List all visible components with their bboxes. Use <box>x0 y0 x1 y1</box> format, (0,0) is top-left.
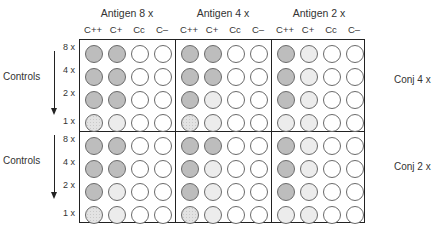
well <box>250 68 268 86</box>
well <box>181 183 199 201</box>
well <box>204 137 222 155</box>
well <box>154 206 172 224</box>
well <box>323 183 341 201</box>
column-label: C– <box>343 24 365 35</box>
column-label: C+ <box>201 24 223 35</box>
well <box>300 206 318 224</box>
antigen-header-2x: Antigen 2 x <box>271 7 367 19</box>
well <box>300 137 318 155</box>
well <box>154 68 172 86</box>
well <box>250 114 268 132</box>
well <box>346 137 364 155</box>
well <box>346 183 364 201</box>
well <box>131 160 149 178</box>
well <box>300 114 318 132</box>
column-label: Cc <box>128 24 150 35</box>
well <box>108 68 126 86</box>
well <box>250 183 268 201</box>
arrow-down-icon <box>51 192 57 199</box>
row-label: 8 x <box>55 42 75 52</box>
well <box>108 91 126 109</box>
well <box>154 114 172 132</box>
column-label: Cc <box>224 24 246 35</box>
antigen-header-8x: Antigen 8 x <box>79 7 175 19</box>
column-label: C++ <box>82 24 104 35</box>
plate-divider <box>80 131 364 132</box>
well <box>154 91 172 109</box>
column-label: C++ <box>274 24 296 35</box>
well <box>85 114 103 132</box>
well <box>227 68 245 86</box>
arrow-down-icon <box>51 108 57 115</box>
well <box>85 91 103 109</box>
well <box>181 91 199 109</box>
well <box>277 183 295 201</box>
column-label: C– <box>247 24 269 35</box>
well <box>108 114 126 132</box>
well <box>300 160 318 178</box>
well <box>181 137 199 155</box>
well <box>181 114 199 132</box>
well <box>108 45 126 63</box>
well <box>181 160 199 178</box>
well <box>131 68 149 86</box>
well <box>227 183 245 201</box>
well <box>181 45 199 63</box>
well <box>250 160 268 178</box>
well <box>108 183 126 201</box>
well <box>131 45 149 63</box>
well <box>323 206 341 224</box>
well <box>108 137 126 155</box>
well <box>181 68 199 86</box>
well-plate-grid <box>79 39 365 223</box>
well <box>204 206 222 224</box>
well <box>227 45 245 63</box>
well <box>204 114 222 132</box>
row-label: 1 x <box>55 116 75 126</box>
well <box>181 206 199 224</box>
well <box>204 91 222 109</box>
well <box>346 45 364 63</box>
well <box>277 160 295 178</box>
well <box>227 114 245 132</box>
well <box>85 183 103 201</box>
well <box>277 45 295 63</box>
row-label: 4 x <box>55 65 75 75</box>
column-label: C+ <box>297 24 319 35</box>
well <box>227 137 245 155</box>
well <box>277 114 295 132</box>
controls-label-bottom: Controls <box>3 155 40 166</box>
well <box>85 45 103 63</box>
well <box>277 91 295 109</box>
row-label: 2 x <box>55 88 75 98</box>
conj-label-2x: Conj 2 x <box>394 161 431 172</box>
well <box>346 91 364 109</box>
well <box>346 68 364 86</box>
antigen-header-4x: Antigen 4 x <box>175 7 271 19</box>
well <box>154 160 172 178</box>
well <box>85 206 103 224</box>
well <box>131 206 149 224</box>
well <box>323 45 341 63</box>
well <box>227 206 245 224</box>
well <box>250 137 268 155</box>
column-label: C++ <box>178 24 200 35</box>
well <box>108 206 126 224</box>
well <box>85 137 103 155</box>
row-label: 1 x <box>55 208 75 218</box>
well <box>131 91 149 109</box>
well <box>85 160 103 178</box>
well <box>323 68 341 86</box>
well <box>204 45 222 63</box>
well <box>323 160 341 178</box>
well <box>323 114 341 132</box>
row-label: 8 x <box>55 134 75 144</box>
well <box>250 45 268 63</box>
well <box>300 45 318 63</box>
column-label: C– <box>151 24 173 35</box>
well <box>300 183 318 201</box>
well <box>250 206 268 224</box>
well <box>277 137 295 155</box>
well <box>131 114 149 132</box>
well <box>346 114 364 132</box>
